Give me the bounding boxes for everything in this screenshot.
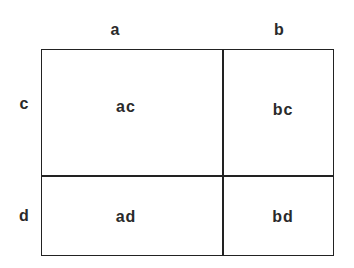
cell-bc: bc	[258, 102, 308, 118]
row-label-d: d	[14, 208, 34, 224]
row-label-c: c	[14, 96, 34, 112]
cell-ac: ac	[101, 99, 151, 115]
column-label-a: a	[105, 22, 125, 38]
column-label-b: b	[269, 22, 289, 38]
cell-ad: ad	[101, 209, 151, 225]
vertical-divider	[222, 49, 224, 256]
horizontal-divider	[41, 175, 334, 177]
cell-bd: bd	[258, 209, 308, 225]
